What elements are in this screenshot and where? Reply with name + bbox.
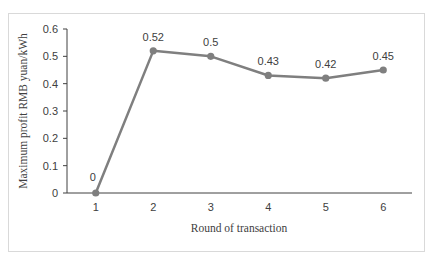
y-tick-label: 0.6 (43, 23, 58, 35)
x-tick-label: 2 (150, 201, 156, 213)
y-tick-label: 0.4 (43, 78, 58, 90)
data-point-marker (207, 53, 214, 60)
data-point-marker (92, 189, 99, 196)
data-label: 0.43 (258, 55, 279, 67)
x-tick-label: 3 (208, 201, 214, 213)
data-point-marker (380, 66, 387, 73)
data-point-marker (265, 72, 272, 79)
y-tick-label: 0.3 (43, 105, 58, 117)
y-axis-title: Maximum profit RMB yuan/kWh (17, 33, 30, 189)
series-line (96, 51, 384, 193)
data-label: 0.5 (203, 36, 218, 48)
x-tick-label: 1 (93, 201, 99, 213)
data-label: 0.45 (373, 50, 394, 62)
y-axis: 00.10.20.30.40.50.6 (43, 23, 67, 199)
data-label: 0.42 (315, 58, 336, 70)
data-label: 0.52 (143, 31, 164, 43)
y-tick-label: 0 (52, 187, 58, 199)
x-tick-label: 6 (380, 201, 386, 213)
data-label: 0 (90, 171, 96, 183)
x-axis-title: Round of transaction (191, 222, 288, 234)
data-series (92, 47, 387, 196)
x-tick-label: 5 (323, 201, 329, 213)
x-tick-label: 4 (265, 201, 271, 213)
x-axis: 123456 (67, 193, 412, 213)
line-chart: 00.10.20.30.40.50.6 123456 00.520.50.430… (0, 0, 432, 262)
data-point-marker (322, 75, 329, 82)
y-tick-label: 0.2 (43, 132, 58, 144)
data-labels: 00.520.50.430.420.45 (90, 31, 394, 183)
y-tick-label: 0.5 (43, 50, 58, 62)
data-point-marker (150, 47, 157, 54)
y-tick-label: 0.1 (43, 160, 58, 172)
